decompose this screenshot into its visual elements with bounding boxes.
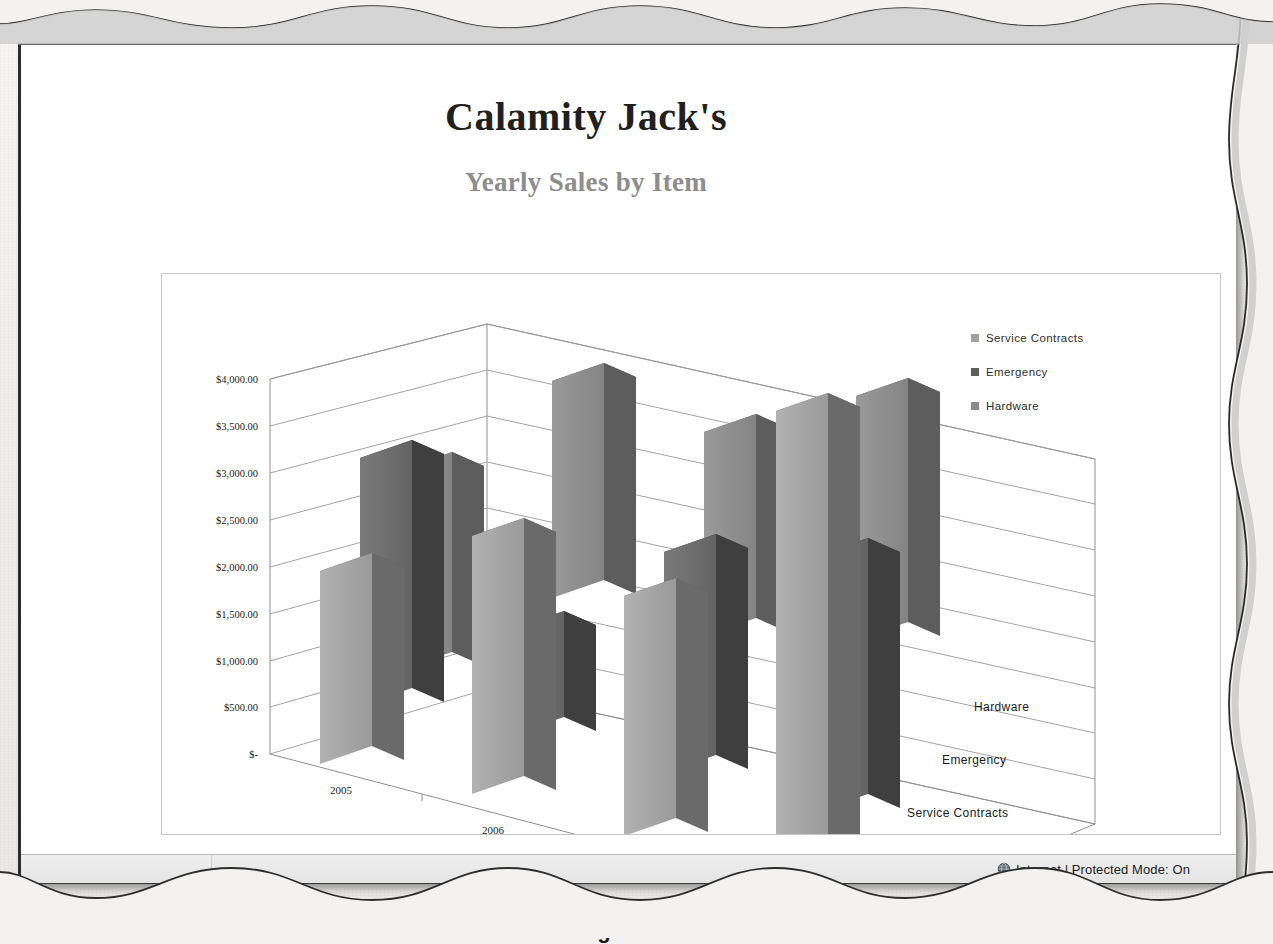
y-tick: $2,000.00 [216, 562, 258, 573]
bar-service-2006[interactable] [472, 518, 556, 794]
legend-swatch-icon [971, 334, 979, 342]
bar-hardware-2006[interactable] [552, 363, 636, 598]
category-label: 2006 [482, 824, 505, 834]
browser-window: Calamity Jack's Yearly Sales by Item [18, 44, 1236, 884]
figure-caption: Figure 1-17 [0, 918, 1273, 944]
y-tick: $3,500.00 [216, 421, 258, 432]
y-tick: $- [249, 749, 258, 760]
document-content: Calamity Jack's Yearly Sales by Item [21, 45, 1236, 883]
y-tick: $1,000.00 [216, 656, 258, 667]
y-tick: $1,500.00 [216, 609, 258, 620]
security-zone-indicator[interactable]: Internet | Protected Mode: On [997, 862, 1190, 877]
legend-item[interactable]: Service Contracts [971, 332, 1116, 344]
chart-title: Calamity Jack's [21, 93, 1151, 140]
depth-label: Emergency [942, 753, 1006, 767]
y-tick: $2,500.00 [216, 515, 258, 526]
legend-label: Service Contracts [986, 332, 1084, 344]
legend-swatch-icon [971, 402, 979, 410]
depth-label: Service Contracts [907, 806, 1009, 820]
legend-label: Hardware [986, 400, 1039, 412]
bar-service-2007[interactable] [624, 578, 708, 834]
y-tick: $4,000.00 [216, 374, 258, 385]
y-tick: $3,000.00 [216, 468, 258, 479]
status-bar-left-region [21, 855, 212, 883]
category-label: 2005 [330, 784, 353, 796]
y-axis-tick-labels: $4,000.00 $3,500.00 $3,000.00 $2,500.00 … [216, 374, 259, 760]
status-bar-text: Internet | Protected Mode: On [1016, 862, 1190, 877]
chart-subtitle: Yearly Sales by Item [21, 167, 1151, 198]
legend-item[interactable]: Hardware [971, 400, 1116, 412]
depth-axis-labels: Hardware Emergency Service Contracts [907, 700, 1029, 820]
globe-icon [997, 862, 1011, 876]
bar-service-2005[interactable] [320, 553, 404, 764]
chart-legend: Service Contracts Emergency Hardware [971, 332, 1116, 434]
y-tick: $500.00 [224, 702, 258, 713]
legend-item[interactable]: Emergency [971, 366, 1116, 378]
legend-label: Emergency [986, 366, 1048, 378]
bar-service-2008[interactable] [776, 393, 860, 834]
depth-label: Hardware [974, 700, 1029, 714]
legend-swatch-icon [971, 368, 979, 376]
browser-status-bar: Internet | Protected Mode: On [21, 854, 1236, 883]
